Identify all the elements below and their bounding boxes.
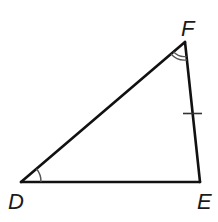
triangle-diagram: D E F — [0, 0, 218, 222]
angle-arc-F-inner — [174, 52, 187, 57]
vertex-label-F: F — [181, 16, 196, 41]
side-EF — [185, 42, 200, 182]
vertex-label-D: D — [8, 189, 24, 214]
angle-arc-D — [37, 169, 42, 182]
side-FD — [21, 42, 185, 182]
vertex-label-E: E — [197, 189, 212, 214]
